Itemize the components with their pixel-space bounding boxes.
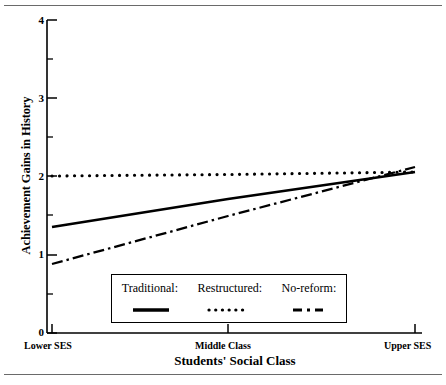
x-tick-label-upper-ses: Upper SES <box>384 341 431 351</box>
x-axis-ticks <box>52 324 415 333</box>
legend-label-restructured: Restructured: <box>197 281 262 296</box>
legend-label-no-reform: No-reform: <box>282 281 337 296</box>
legend-labels: Traditional: Restructured: No-reform: <box>112 281 346 296</box>
plot-area <box>0 0 446 385</box>
series-line-restructured <box>52 172 415 176</box>
series-line-no-reform <box>52 167 415 264</box>
series-line-traditional <box>52 172 415 227</box>
legend-label-traditional: Traditional: <box>122 281 178 296</box>
legend-swatch-no-reform <box>281 304 333 316</box>
x-tick-label-lower-ses: Lower SES <box>24 341 72 351</box>
x-axis-title: Students' Social Class <box>47 353 423 369</box>
legend-swatch-restructured <box>203 304 255 316</box>
chart-figure: Achievement Gains in History 4 3 2 1 0 <box>0 0 446 385</box>
chart-legend: Traditional: Restructured: No-reform: <box>111 274 347 323</box>
legend-samples <box>112 304 346 316</box>
x-tick-label-middle-class: Middle Class <box>195 341 251 351</box>
legend-swatch-traditional <box>125 304 177 316</box>
